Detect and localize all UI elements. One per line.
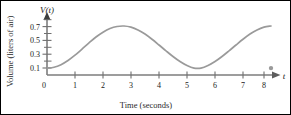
y-axis-tick-labels: 0.1 0.3 0.5 0.7 xyxy=(30,23,40,73)
x-tick-label: 5 xyxy=(185,81,189,90)
x-tick-label: 6 xyxy=(213,81,217,90)
y-tick-label: 0.3 xyxy=(30,50,40,59)
x-tick-label: 7 xyxy=(241,81,245,90)
y-tick-label: 0.5 xyxy=(30,36,40,45)
x-axis-arrowhead xyxy=(272,71,281,78)
x-axis-tick-labels: 0 1 2 3 4 5 6 7 8 xyxy=(42,81,266,90)
x-tick-label: 8 xyxy=(262,81,266,90)
x-tick-label: 0 xyxy=(42,81,46,90)
axis-lines xyxy=(43,12,280,79)
x-tick-label: 3 xyxy=(129,81,133,90)
volume-vs-time-chart: Volume (liters of air) Time (seconds) V(… xyxy=(1,1,291,115)
x-axis-symbol-label: t xyxy=(283,71,286,81)
y-tick-label: 0.7 xyxy=(30,23,40,32)
x-axis-title: Time (seconds) xyxy=(120,100,173,110)
volume-curve xyxy=(47,26,271,68)
curve-endpoint-marker xyxy=(269,66,273,70)
y-tick-label: 0.1 xyxy=(30,64,40,73)
x-tick-label: 2 xyxy=(101,81,105,90)
x-tick-label: 4 xyxy=(157,81,161,90)
figure-container: Volume (liters of air) Time (seconds) V(… xyxy=(0,0,291,115)
x-tick-label: 1 xyxy=(73,81,77,90)
y-axis-title: Volume (liters of air) xyxy=(5,15,15,87)
